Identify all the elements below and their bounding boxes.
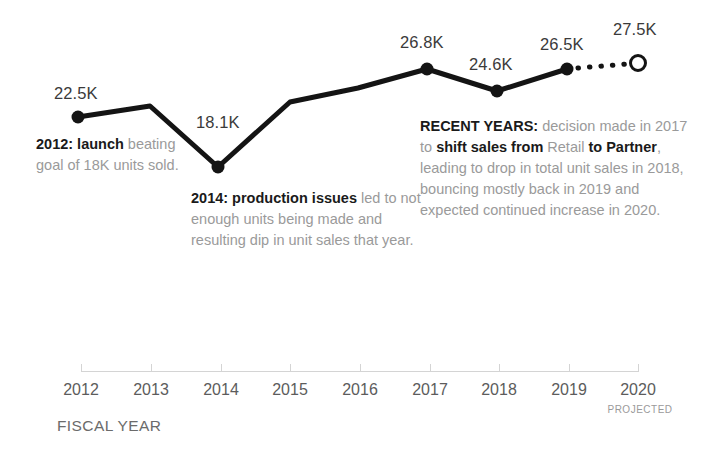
x-axis-tick-2013 [151,364,152,372]
value-label-2019: 26.5K [540,35,584,54]
x-axis-label-2017: 2017 [412,381,448,399]
x-axis-tick-2017 [430,364,431,372]
value-label-2017: 26.8K [400,33,444,52]
annotation-recent-emphasis-1: shift sales from [436,139,543,155]
x-axis-tick-2014 [221,364,222,372]
x-axis-tick-2019 [569,364,570,372]
data-point-2018 [491,85,504,98]
x-axis-label-2016: 2016 [342,381,378,399]
line-chart: 22.5K 18.1K 26.8K 24.6K 26.5K 27.5K 2012… [0,0,721,454]
data-point-2017 [421,63,434,76]
x-axis-tick-2012 [81,364,82,372]
x-axis-tick-2018 [499,364,500,372]
value-label-2014: 18.1K [196,113,240,132]
x-axis-label-2018: 2018 [481,381,517,399]
projected-note: PROJECTED [607,404,672,415]
annotation-recent-emphasis-2: to Partner [588,139,657,155]
x-axis-tick-2015 [290,364,291,372]
data-point-2020-projected [631,56,646,71]
x-axis-tick-2020 [638,364,639,372]
annotation-production: 2014: production issues led to not enoug… [191,188,421,251]
data-point-2019 [561,63,574,76]
value-label-2012: 22.5K [54,84,98,103]
x-axis-label-2012: 2012 [63,381,99,399]
annotation-recent-years: RECENT YEARS: decision made in 2017 to s… [420,116,698,221]
data-point-2012 [72,111,85,124]
x-axis-label-2015: 2015 [272,381,308,399]
x-axis-label-2019: 2019 [551,381,587,399]
x-axis-label-2020: 2020 [620,381,656,399]
annotation-launch: 2012: launch beating goal of 18K units s… [36,134,206,176]
data-point-2014 [212,161,225,174]
annotation-recent-part2: Retail [543,139,588,155]
x-axis-tick-2016 [360,364,361,372]
value-label-2018: 24.6K [469,55,513,74]
x-axis-title: FISCAL YEAR [57,417,161,435]
series-line-projected [578,64,628,68]
x-axis-label-2014: 2014 [203,381,239,399]
annotation-production-heading: 2014: production issues [191,190,357,206]
annotation-recent-heading: RECENT YEARS: [420,118,538,134]
value-label-2020: 27.5K [613,20,657,39]
annotation-launch-heading: 2012: launch [36,136,124,152]
x-axis-label-2013: 2013 [133,381,169,399]
